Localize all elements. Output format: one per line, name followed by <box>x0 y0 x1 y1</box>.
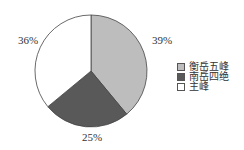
legend-item-zhufeng: 主峰 <box>177 82 229 92</box>
slice-label-hengyue-wufeng: 39% <box>152 34 172 46</box>
legend-swatch <box>177 73 185 81</box>
legend-label: 主峰 <box>189 82 209 92</box>
legend-swatch <box>177 83 185 91</box>
slice-label-nanyue-sijue: 25% <box>82 131 102 143</box>
legend-swatch <box>177 63 185 71</box>
slice-label-zhufeng: 36% <box>18 34 38 46</box>
chart-legend: 衡岳五峰 南岳四绝 主峰 <box>177 62 229 92</box>
